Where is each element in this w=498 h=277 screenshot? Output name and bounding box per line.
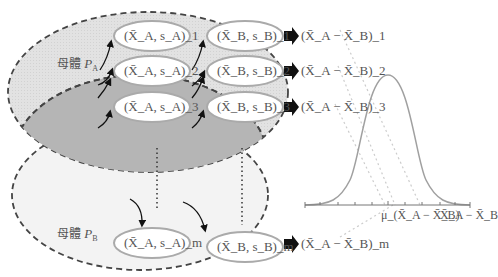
sample-a-3-label: (X̄_A, s_A)_3	[124, 99, 198, 115]
diff-2-label: (X̄_A − X̄_B)_2	[301, 63, 386, 79]
result-arrows	[284, 27, 299, 253]
diff-m-label: (X̄_A − X̄_B)_m	[301, 236, 389, 252]
population-b-text: 母體	[57, 227, 81, 241]
population-a-text: 母體	[57, 57, 81, 71]
sample-a-1-label: (X̄_A, s_A)_1	[124, 28, 198, 44]
sample-b-m-label: (X̄_B, s_B)_m	[217, 239, 294, 255]
sample-b-2-label: (X̄_B, s_B)_2	[217, 63, 290, 79]
population-a-label: 母體 PA	[57, 54, 98, 72]
projection-lines	[335, 30, 420, 237]
axis-label: X̄_A − X̄_B	[440, 208, 498, 223]
population-a-subscript: A	[92, 64, 98, 73]
sample-a-m-label: (X̄_A, s_A)_m	[124, 235, 202, 251]
sample-a-2-label: (X̄_A, s_A)_2	[124, 63, 198, 79]
diff-1-label: (X̄_A − X̄_B)_1	[301, 28, 386, 44]
sample-b-1-label: (X̄_B, s_B)_1	[217, 28, 290, 44]
population-a-symbol: P	[84, 56, 92, 71]
sample-b-3-label: (X̄_B, s_B)_3	[217, 99, 290, 115]
population-b-label: 母體 PB	[57, 224, 98, 242]
sampling-distribution-curve	[305, 75, 470, 205]
population-b-subscript: B	[92, 234, 97, 243]
population-b-symbol: P	[84, 226, 92, 241]
diff-3-label: (X̄_A − X̄_B)_3	[301, 99, 386, 115]
